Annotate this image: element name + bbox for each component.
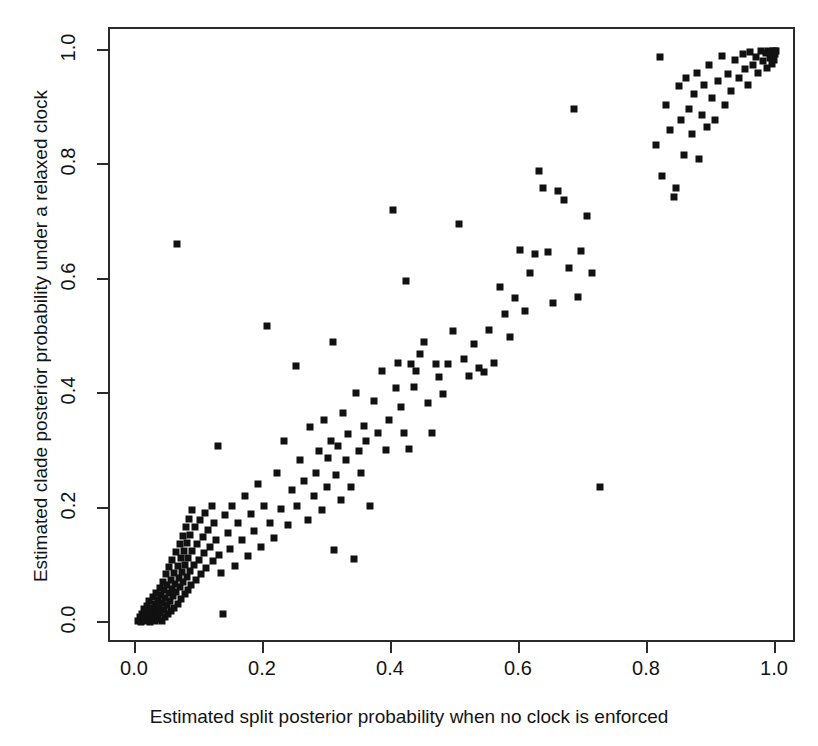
data-point — [348, 483, 355, 490]
data-point — [367, 502, 374, 509]
data-point — [182, 524, 189, 531]
data-point — [208, 502, 215, 509]
data-point — [735, 75, 742, 82]
y-axis-label: Estimated clade posterior probability un… — [30, 90, 51, 582]
data-point — [470, 340, 477, 347]
data-point — [455, 221, 462, 228]
x-tick-mark — [134, 642, 136, 653]
data-point — [227, 545, 234, 552]
data-point — [486, 327, 493, 334]
data-point — [332, 472, 339, 479]
data-point — [440, 391, 447, 398]
data-point — [270, 535, 277, 542]
data-point — [371, 398, 378, 405]
data-point — [285, 521, 292, 528]
data-point — [703, 123, 710, 130]
data-point — [224, 530, 231, 537]
scatter-plot-figure: 0.00.20.40.60.81.0 0.00.20.40.60.81.0 Es… — [0, 0, 818, 746]
data-point — [545, 249, 552, 256]
x-tick-mark — [774, 642, 776, 653]
data-point — [693, 69, 700, 76]
data-point — [715, 77, 722, 84]
data-point — [209, 558, 216, 565]
data-point — [583, 212, 590, 219]
x-tick-label: 1.0 — [744, 657, 804, 680]
data-point — [198, 571, 205, 578]
data-point — [450, 328, 457, 335]
data-point — [536, 168, 543, 175]
plot-area — [108, 27, 795, 642]
y-tick-mark — [97, 392, 108, 394]
data-point — [405, 445, 412, 452]
data-point — [313, 470, 320, 477]
data-point — [258, 544, 265, 551]
data-point — [436, 374, 443, 381]
y-tick-label-text: 0.4 — [57, 369, 80, 413]
data-point — [261, 502, 268, 509]
data-point — [670, 193, 677, 200]
data-point — [238, 537, 245, 544]
data-point — [331, 546, 338, 553]
data-point — [652, 142, 659, 149]
data-point — [245, 552, 252, 559]
data-point — [206, 543, 213, 550]
data-point — [382, 447, 389, 454]
data-point — [728, 88, 735, 95]
data-point — [304, 517, 311, 524]
data-point — [337, 497, 344, 504]
x-tick-mark — [390, 642, 392, 653]
data-point — [718, 52, 725, 59]
data-point — [691, 90, 698, 97]
data-point — [501, 311, 508, 318]
x-tick-label: 0.8 — [616, 657, 676, 680]
data-point — [229, 502, 236, 509]
data-point — [445, 361, 452, 368]
data-point — [755, 69, 762, 76]
y-tick-label-text: 0.0 — [57, 598, 80, 642]
data-point — [410, 384, 417, 391]
data-point — [659, 172, 666, 179]
y-tick-label: 0.0 — [46, 608, 90, 631]
data-point — [273, 470, 280, 477]
data-point — [241, 493, 248, 500]
y-tick-label-text: 0.2 — [57, 483, 80, 527]
data-point — [400, 430, 407, 437]
data-point — [672, 185, 679, 192]
data-point — [739, 50, 746, 57]
data-point — [281, 438, 288, 445]
data-point — [698, 112, 705, 119]
data-point — [318, 506, 325, 513]
data-point — [321, 416, 328, 423]
data-point — [678, 116, 685, 123]
data-point — [220, 610, 227, 617]
data-point — [296, 456, 303, 463]
data-point — [187, 531, 194, 538]
data-point — [330, 338, 337, 345]
data-point — [555, 188, 562, 195]
x-tick-mark — [518, 642, 520, 653]
x-axis-label: Estimated split posterior probability wh… — [0, 706, 818, 728]
data-point — [216, 551, 223, 558]
data-point — [342, 456, 349, 463]
data-point — [289, 487, 296, 494]
data-point — [511, 295, 518, 302]
data-point — [688, 130, 695, 137]
data-point — [413, 368, 420, 375]
data-point — [300, 478, 307, 485]
data-point — [570, 106, 577, 113]
data-point — [232, 562, 239, 569]
data-point — [323, 483, 330, 490]
data-point — [199, 534, 206, 541]
data-point — [277, 505, 284, 512]
data-point — [335, 442, 342, 449]
data-point — [327, 438, 334, 445]
x-tick-label: 0.0 — [104, 657, 164, 680]
data-point — [481, 369, 488, 376]
data-point — [363, 438, 370, 445]
data-point — [597, 483, 604, 490]
y-tick-mark — [97, 621, 108, 623]
data-point — [203, 565, 210, 572]
data-point — [197, 517, 204, 524]
data-point — [390, 207, 397, 214]
data-point — [744, 82, 751, 89]
